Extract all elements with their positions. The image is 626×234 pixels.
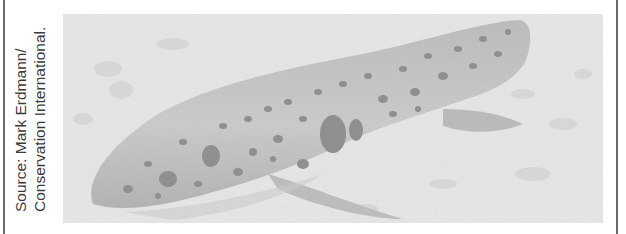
- shark-photo: [63, 14, 603, 223]
- photo-credit-caption: Source: Mark Erdmann/ Conservation Inter…: [11, 20, 55, 212]
- caption-line-2: Conservation International.: [30, 20, 49, 212]
- caption-line-1: Source: Mark Erdmann/: [11, 20, 30, 212]
- frame-right-border: [616, 0, 618, 234]
- frame-left-border: [3, 0, 5, 234]
